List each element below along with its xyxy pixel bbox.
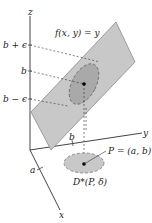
x-tick-label: a <box>30 165 35 175</box>
point-p-label: P = (a, b) <box>107 146 152 156</box>
y-axis-label: y <box>142 128 149 138</box>
disk-label: D*(P, δ) <box>72 177 108 187</box>
z-tick-lower-label: b − ϵ <box>3 94 27 104</box>
z-axis-label: z <box>27 7 33 17</box>
surface-point <box>82 82 86 86</box>
z-tick-upper-label: b + ϵ <box>3 40 27 50</box>
x-axis-label: x <box>59 210 64 220</box>
z-tick-middle-label: b <box>21 66 27 76</box>
function-label: f(x, y) = y <box>54 28 100 38</box>
diagram-canvas: z y x f(x, y) = y b + ϵ b b − ϵ a b P = … <box>0 0 152 223</box>
x-axis <box>30 150 60 210</box>
y-tick-label: b <box>69 132 75 142</box>
